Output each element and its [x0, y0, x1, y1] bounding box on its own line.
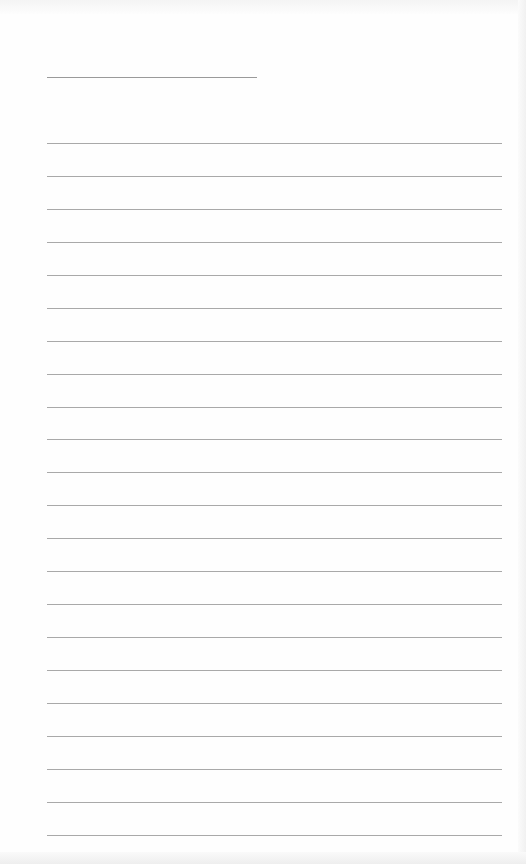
ruled-line — [47, 308, 502, 341]
ruled-line — [47, 275, 502, 308]
ruled-line — [47, 538, 502, 571]
ruled-line — [47, 209, 502, 242]
ruled-line — [47, 505, 502, 538]
top-edge-shadow — [0, 0, 526, 14]
ruled-line — [47, 374, 502, 407]
ruled-lines — [47, 143, 502, 837]
ruled-paper-sheet — [0, 0, 526, 864]
ruled-line — [47, 703, 502, 736]
bottom-edge-shadow — [0, 852, 526, 864]
ruled-line — [47, 143, 502, 176]
ruled-line — [47, 736, 502, 769]
ruled-line — [47, 769, 502, 802]
ruled-line — [47, 637, 502, 670]
ruled-line — [47, 802, 502, 835]
ruled-line — [47, 670, 502, 703]
ruled-line — [47, 472, 502, 505]
title-line — [47, 77, 257, 78]
ruled-line — [47, 604, 502, 637]
right-edge-shadow — [518, 0, 526, 864]
ruled-line — [47, 242, 502, 275]
ruled-line — [47, 341, 502, 374]
ruled-line — [47, 571, 502, 604]
ruled-line — [47, 439, 502, 472]
ruled-line — [47, 835, 502, 837]
ruled-line — [47, 407, 502, 440]
ruled-line — [47, 176, 502, 209]
